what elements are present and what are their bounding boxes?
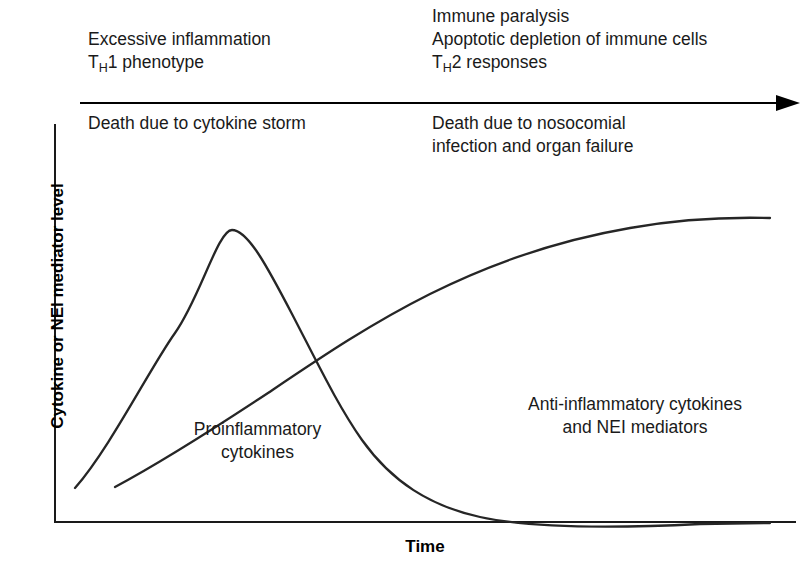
phase-late-line-1: Immune paralysis [432, 5, 707, 28]
phase-early-line-2: TH1 phenotype [88, 51, 271, 76]
timeline-arrow-head [776, 95, 800, 111]
phase-early-description: Excessive inflammation TH1 phenotype [88, 28, 271, 76]
phase-late-line-2: Apoptotic depletion of immune cells [432, 28, 707, 51]
curve-label-proinflammatory: Proinflammatory cytokines [150, 418, 365, 464]
phase-late-description: Immune paralysis Apoptotic depletion of … [432, 5, 707, 76]
phase-late-line-3: TH2 responses [432, 51, 707, 76]
curve-label-proinflammatory-line-2: cytokines [150, 441, 365, 464]
curve-proinflammatory [75, 230, 770, 527]
curve-label-antiinflammatory-line-2: and NEI mediators [485, 416, 785, 439]
figure-root: Excessive inflammation TH1 phenotype Imm… [0, 0, 811, 578]
curve-label-antiinflammatory-line-1: Anti-inflammatory cytokines [485, 393, 785, 416]
phase-early-line-1: Excessive inflammation [88, 28, 271, 51]
x-axis-title: Time [55, 537, 795, 557]
curve-label-proinflammatory-line-1: Proinflammatory [150, 418, 365, 441]
plot-svg [0, 118, 811, 538]
y-axis-title: Cytokine or NEI mediator level [48, 141, 68, 471]
plot-area: Proinflammatory cytokines Anti-inflammat… [0, 118, 811, 538]
curve-label-antiinflammatory: Anti-inflammatory cytokines and NEI medi… [485, 393, 785, 439]
